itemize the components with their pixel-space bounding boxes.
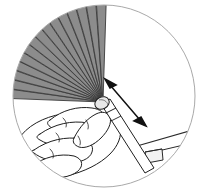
illustration-canvas [0, 0, 208, 192]
illustration-root: Hand opening a folding fan Circular deta… [0, 0, 208, 192]
